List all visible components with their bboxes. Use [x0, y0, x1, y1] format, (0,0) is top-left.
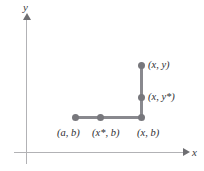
y-axis-label: y	[23, 2, 28, 13]
point-label-a-b: (a, b)	[57, 128, 80, 139]
point-x-y	[138, 62, 145, 69]
point-label-xstar-b: (x*, b)	[92, 128, 119, 139]
point-x-b	[138, 114, 145, 121]
point-a-b	[72, 114, 79, 121]
point-label-x-b: (x, b)	[137, 128, 159, 139]
arrow-up-icon	[23, 13, 31, 20]
arrow-right-icon	[183, 148, 190, 156]
point-label-x-y: (x, y)	[148, 60, 170, 71]
path-segment-vertical	[140, 65, 143, 118]
point-label-x-ystar: (x, y*)	[148, 92, 175, 103]
y-axis-line	[26, 19, 27, 164]
point-x-ystar	[138, 94, 145, 101]
coordinate-diagram: y x (x, y) (x, y*) (a, b) (x*, b) (x, b)	[0, 0, 204, 171]
point-xstar-b	[97, 114, 104, 121]
x-axis-label: x	[192, 147, 197, 158]
path-segment-horizontal	[75, 116, 142, 119]
x-axis-line	[14, 152, 185, 153]
